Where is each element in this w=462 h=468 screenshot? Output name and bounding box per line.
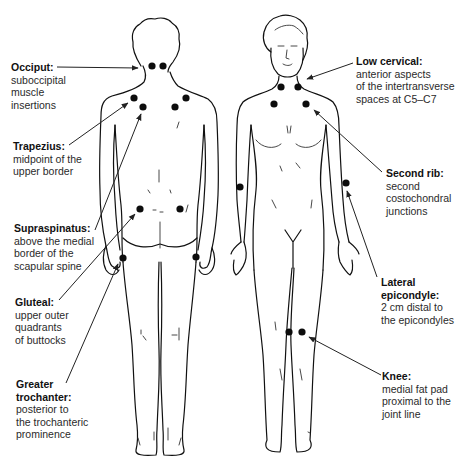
- tender-point-trapezius-right: [182, 94, 189, 101]
- label-greater-trochanter-title: Greater trochanter:: [16, 378, 88, 403]
- tender-point-knee-right: [298, 328, 305, 335]
- leader-trapezius: [69, 103, 128, 145]
- label-second-rib-title: Second rib:: [386, 167, 451, 180]
- label-knee: Knee: medial fat pad proximal to the joi…: [382, 370, 451, 420]
- tender-point-supraspinatus-left: [139, 103, 146, 110]
- leader-lateral-epicondyle: [347, 191, 377, 277]
- tender-point-trochanter-left: [119, 254, 126, 261]
- tender-point-second-rib-left: [270, 100, 277, 107]
- tender-point-epicondyle-right: [342, 179, 349, 186]
- label-gluteal: Gluteal: upper outer quadrants of buttoc…: [15, 296, 69, 346]
- label-supraspinatus-title: Supraspinatus:: [14, 222, 94, 235]
- label-greater-trochanter-desc: posterior to the trochanteric prominence: [16, 403, 88, 441]
- tender-point-low-cervical-left: [277, 83, 284, 90]
- tender-point-gluteal-right: [176, 205, 183, 212]
- tender-point-knee-left: [285, 328, 292, 335]
- label-supraspinatus-desc: above the medial border of the scapular …: [14, 235, 94, 273]
- tender-point-gluteal-left: [136, 205, 143, 212]
- label-lateral-epicondyle-title: Lateral epicondyle:: [381, 276, 454, 301]
- leader-greater-trochanter: [66, 264, 118, 383]
- label-supraspinatus: Supraspinatus: above the medial border o…: [14, 222, 94, 272]
- label-trapezius: Trapezius: midpoint of the upper border: [13, 140, 82, 178]
- label-occiput: Occiput: suboccipital muscle insertions: [11, 61, 66, 111]
- label-trapezius-desc: midpoint of the upper border: [13, 153, 82, 178]
- label-low-cervical-desc: anterior aspects of the intertransverse …: [356, 68, 455, 106]
- label-occiput-title: Occiput:: [11, 61, 66, 74]
- label-second-rib: Second rib: second costochondral junctio…: [386, 167, 451, 217]
- label-second-rib-desc: second costochondral junctions: [386, 180, 451, 218]
- tender-point-occiput-right: [159, 62, 166, 69]
- label-low-cervical: Low cervical: anterior aspects of the in…: [356, 55, 455, 105]
- tender-point-epicondyle-left: [236, 183, 243, 190]
- label-knee-desc: medial fat pad proximal to the joint lin…: [382, 383, 451, 421]
- tender-point-trapezius-left: [130, 94, 137, 101]
- tender-point-occiput-left: [148, 62, 155, 69]
- leader-lines: [57, 63, 382, 383]
- label-occiput-desc: suboccipital muscle insertions: [11, 74, 66, 112]
- label-lateral-epicondyle-desc: 2 cm distal to the epicondyles: [381, 301, 454, 326]
- label-trapezius-title: Trapezius:: [13, 140, 82, 153]
- label-knee-title: Knee:: [382, 370, 451, 383]
- tender-point-second-rib-right: [302, 100, 309, 107]
- anterior-body-figure: [231, 15, 359, 452]
- tender-point-low-cervical-right: [294, 83, 301, 90]
- tender-point-trochanter-right: [192, 253, 199, 260]
- leader-occiput: [57, 67, 138, 68]
- leader-supraspinatus: [95, 114, 141, 230]
- label-greater-trochanter: Greater trochanter: posterior to the tro…: [16, 378, 88, 441]
- label-low-cervical-title: Low cervical:: [356, 55, 455, 68]
- posterior-body-figure: [100, 18, 219, 455]
- leader-low-cervical: [307, 63, 353, 79]
- tender-point-supraspinatus-right: [171, 103, 178, 110]
- leader-knee: [309, 337, 381, 375]
- label-gluteal-title: Gluteal:: [15, 296, 69, 309]
- label-lateral-epicondyle: Lateral epicondyle: 2 cm distal to the e…: [381, 276, 454, 326]
- label-gluteal-desc: upper outer quadrants of buttocks: [15, 309, 69, 347]
- tender-points: [119, 62, 349, 335]
